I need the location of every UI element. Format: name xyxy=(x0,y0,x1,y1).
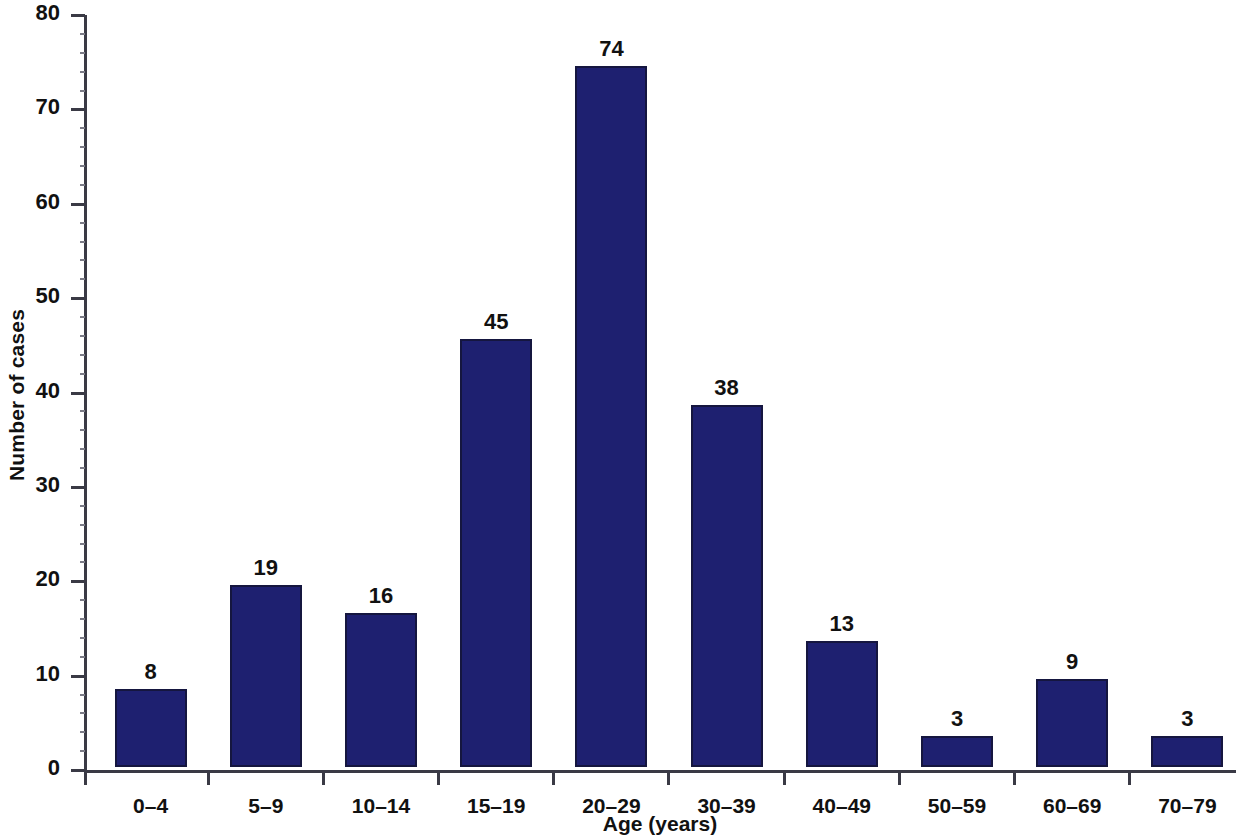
x-axis-tick xyxy=(322,770,325,785)
y-axis-minor-tick xyxy=(80,127,85,129)
y-axis-minor-tick xyxy=(80,448,85,450)
bar: 38 xyxy=(691,405,763,767)
y-axis-minor-tick xyxy=(80,750,85,752)
y-axis-minor-tick xyxy=(80,52,85,54)
bar-value-label: 16 xyxy=(369,583,393,609)
bar-value-label: 45 xyxy=(484,309,508,335)
y-axis-minor-tick xyxy=(80,316,85,318)
y-axis-tick-label: 0 xyxy=(48,755,60,781)
bar-value-label: 9 xyxy=(1066,649,1078,675)
y-axis-minor-tick xyxy=(80,146,85,148)
y-axis-minor-tick xyxy=(80,637,85,639)
x-axis-title: Age (years) xyxy=(84,812,1236,836)
y-axis-minor-tick xyxy=(80,241,85,243)
y-axis-tick: 50 xyxy=(71,297,85,300)
bar: 8 xyxy=(115,689,187,768)
y-axis-minor-tick xyxy=(80,561,85,563)
y-axis-tick-label: 70 xyxy=(36,95,60,121)
y-axis-minor-tick xyxy=(80,33,85,35)
y-axis-minor-tick xyxy=(80,222,85,224)
bar: 13 xyxy=(806,641,878,767)
bar: 19 xyxy=(230,585,302,767)
bar-chart: Number of cases 0102030405060708080–4195… xyxy=(0,0,1242,840)
bar-value-label: 3 xyxy=(1181,706,1193,732)
plot-area: 0102030405060708080–4195–91610–144515–19… xyxy=(84,15,1236,770)
y-axis-minor-tick xyxy=(80,354,85,356)
x-axis-tick xyxy=(437,770,440,785)
y-axis-tick: 60 xyxy=(71,203,85,206)
x-axis-tick xyxy=(898,770,901,785)
y-axis-tick: 30 xyxy=(71,486,85,489)
bar: 45 xyxy=(460,339,532,767)
y-axis-minor-tick xyxy=(80,278,85,280)
x-axis-line xyxy=(84,770,1236,773)
x-axis-tick xyxy=(552,770,555,785)
bar-value-label: 38 xyxy=(714,375,738,401)
y-axis-tick: 80 xyxy=(71,14,85,17)
bar: 3 xyxy=(921,736,993,767)
bar-value-label: 19 xyxy=(254,555,278,581)
x-axis-tick xyxy=(207,770,210,785)
x-axis-tick xyxy=(84,770,87,785)
y-axis-tick: 70 xyxy=(71,108,85,111)
y-axis-minor-tick xyxy=(80,712,85,714)
y-axis-tick-label: 30 xyxy=(36,472,60,498)
bar: 74 xyxy=(575,66,647,767)
y-axis-tick: 20 xyxy=(71,580,85,583)
y-axis-minor-tick xyxy=(80,335,85,337)
y-axis-minor-tick xyxy=(80,599,85,601)
x-axis-tick xyxy=(1128,770,1131,785)
y-axis-tick-label: 10 xyxy=(36,661,60,687)
x-axis-tick xyxy=(1013,770,1016,785)
y-axis-minor-tick xyxy=(80,165,85,167)
bar-value-label: 13 xyxy=(830,611,854,637)
bar: 3 xyxy=(1151,736,1223,767)
x-axis-tick xyxy=(667,770,670,785)
y-axis-title-label: Number of cases xyxy=(5,309,29,481)
y-axis-minor-tick xyxy=(80,731,85,733)
y-axis-minor-tick xyxy=(80,373,85,375)
y-axis-minor-tick xyxy=(80,467,85,469)
y-axis-minor-tick xyxy=(80,524,85,526)
y-axis-minor-tick xyxy=(80,694,85,696)
y-axis-tick-label: 80 xyxy=(36,0,60,26)
y-axis-minor-tick xyxy=(80,543,85,545)
y-axis-tick-label: 20 xyxy=(36,567,60,593)
y-axis-minor-tick xyxy=(80,90,85,92)
y-axis-minor-tick xyxy=(80,618,85,620)
y-axis-minor-tick xyxy=(80,656,85,658)
bar-value-label: 74 xyxy=(599,36,623,62)
y-axis-tick: 10 xyxy=(71,675,85,678)
x-axis-tick xyxy=(783,770,786,785)
bar: 9 xyxy=(1036,679,1108,767)
y-axis-tick-label: 50 xyxy=(36,284,60,310)
y-axis-minor-tick xyxy=(80,184,85,186)
y-axis-minor-tick xyxy=(80,505,85,507)
y-axis-minor-tick xyxy=(80,259,85,261)
y-axis-tick: 0 xyxy=(71,769,85,772)
y-axis-tick-label: 40 xyxy=(36,378,60,404)
y-axis-tick: 40 xyxy=(71,392,85,395)
bar: 16 xyxy=(345,613,417,767)
y-axis-minor-tick xyxy=(80,71,85,73)
y-axis-minor-tick xyxy=(80,429,85,431)
y-axis-minor-tick xyxy=(80,410,85,412)
y-axis-title: Number of cases xyxy=(0,0,34,790)
bar-value-label: 3 xyxy=(951,706,963,732)
y-axis-tick-label: 60 xyxy=(36,189,60,215)
bar-value-label: 8 xyxy=(144,659,156,685)
